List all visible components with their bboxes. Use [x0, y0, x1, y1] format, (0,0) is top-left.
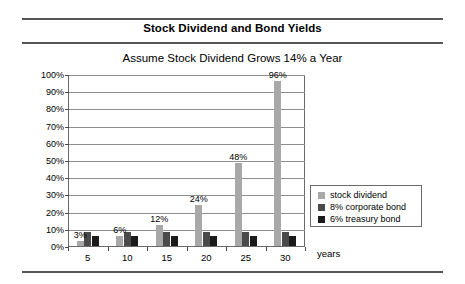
chart-plot: 51015202530 0%10%20%30%40%50%60%70%80%90…	[0, 0, 465, 284]
bar	[171, 236, 178, 246]
y-axis-tick	[65, 178, 69, 179]
bar	[131, 236, 138, 246]
y-axis-tick	[65, 144, 69, 145]
legend-swatch-icon	[318, 216, 325, 223]
y-axis-label: 50%	[24, 157, 64, 166]
bar-value-label: 3%	[63, 231, 97, 240]
y-axis-label: 60%	[24, 140, 64, 149]
x-axis-label: 5	[68, 253, 108, 263]
bar	[203, 232, 210, 246]
y-axis-tick	[65, 195, 69, 196]
bar	[242, 232, 249, 246]
bar	[195, 205, 202, 246]
bar	[235, 163, 242, 246]
y-axis-label: 30%	[24, 191, 64, 200]
y-axis-label: 40%	[24, 174, 64, 183]
footer-rule	[22, 271, 443, 273]
x-axis-tick	[108, 247, 109, 251]
y-axis-label: 20%	[24, 209, 64, 218]
bar-value-label: 12%	[142, 215, 176, 224]
y-axis-tick	[65, 127, 69, 128]
x-axis-tick	[68, 247, 69, 251]
y-axis-tick	[65, 109, 69, 110]
bar	[282, 232, 289, 246]
x-axis-label: 30	[265, 253, 305, 263]
legend-item: 8% corporate bond	[318, 202, 421, 213]
x-axis-label: 15	[147, 253, 187, 263]
legend-swatch-icon	[318, 192, 325, 199]
legend-label: stock dividend	[330, 191, 387, 200]
x-axis-label: 20	[186, 253, 226, 263]
x-axis-tick	[226, 247, 227, 251]
gridline	[68, 127, 305, 128]
bar-value-label: 24%	[182, 195, 216, 204]
x-axis-tick	[187, 247, 188, 251]
bar	[156, 225, 163, 246]
bar	[250, 236, 257, 246]
gridline	[68, 144, 305, 145]
gridline	[68, 178, 305, 179]
legend-label: 8% corporate bond	[330, 203, 406, 212]
x-axis-label: 25	[226, 253, 266, 263]
x-axis-label: 10	[107, 253, 147, 263]
y-axis-label: 90%	[24, 88, 64, 97]
y-axis-label: 70%	[24, 123, 64, 132]
gridline	[68, 109, 305, 110]
legend-item: stock dividend	[318, 190, 421, 201]
gridline	[68, 92, 305, 93]
x-axis-tick	[305, 247, 306, 251]
y-axis-tick	[65, 161, 69, 162]
bar-value-label: 6%	[103, 226, 137, 235]
legend-label: 6% treasury bond	[330, 215, 401, 224]
bar	[289, 236, 296, 246]
bar	[116, 236, 123, 246]
chart-legend: stock dividend8% corporate bond6% treasu…	[310, 185, 422, 227]
x-axis-title: years	[317, 249, 340, 259]
y-axis-label: 0%	[24, 243, 64, 252]
bar	[274, 81, 281, 246]
y-axis-label: 10%	[24, 226, 64, 235]
plot-area: 51015202530	[68, 75, 305, 247]
y-axis-label: 80%	[24, 105, 64, 114]
bar	[210, 236, 217, 246]
legend-item: 6% treasury bond	[318, 214, 421, 225]
x-axis-tick	[266, 247, 267, 251]
gridline	[68, 161, 305, 162]
bar	[77, 241, 84, 246]
legend-swatch-icon	[318, 204, 325, 211]
bar-value-label: 48%	[221, 153, 255, 162]
x-axis-tick	[147, 247, 148, 251]
y-axis-tick	[65, 75, 69, 76]
y-axis-tick	[65, 213, 69, 214]
bar	[163, 232, 170, 246]
bar-value-label: 96%	[261, 71, 295, 80]
y-axis-label: 100%	[24, 71, 64, 80]
y-axis-tick	[65, 92, 69, 93]
gridline	[68, 213, 305, 214]
